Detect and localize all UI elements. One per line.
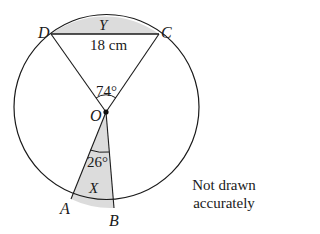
angle-aob-label: 26° bbox=[87, 154, 108, 170]
label-o: O bbox=[90, 107, 102, 124]
chord-length-label: 18 cm bbox=[90, 37, 127, 53]
not-drawn-accurately-note: Not drawn accurately bbox=[184, 176, 264, 212]
note-line-2: accurately bbox=[184, 194, 264, 212]
angle-doc-label: 74° bbox=[96, 83, 117, 99]
label-a: A bbox=[59, 200, 70, 217]
note-line-1: Not drawn bbox=[184, 176, 264, 194]
center-point-o bbox=[103, 109, 108, 114]
label-d: D bbox=[37, 24, 50, 41]
label-c: C bbox=[161, 24, 172, 41]
label-b: B bbox=[109, 212, 119, 229]
label-x: X bbox=[88, 180, 99, 196]
